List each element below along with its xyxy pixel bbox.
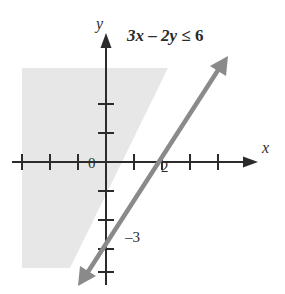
x-axis-label: x <box>262 140 269 156</box>
inequality-label: 3x – 2y ≤ 6 <box>127 27 203 44</box>
inequality-term-x: 3x <box>127 26 144 45</box>
y-axis-label: y <box>96 16 103 32</box>
line-arrow-upper <box>210 56 228 76</box>
origin-label: 0 <box>88 156 96 171</box>
inequality-graph-figure: y x 0 2 –3 3x – 2y ≤ 6 <box>0 0 285 294</box>
inequality-constant: 6 <box>195 26 204 45</box>
inequality-minus: – <box>148 26 157 45</box>
x-intercept-label: 2 <box>161 160 169 175</box>
line-arrow-lower <box>78 266 96 286</box>
inequality-term-y: 2y <box>161 26 177 45</box>
y-intercept-label: –3 <box>125 230 140 245</box>
inequality-relation: ≤ <box>181 26 190 45</box>
